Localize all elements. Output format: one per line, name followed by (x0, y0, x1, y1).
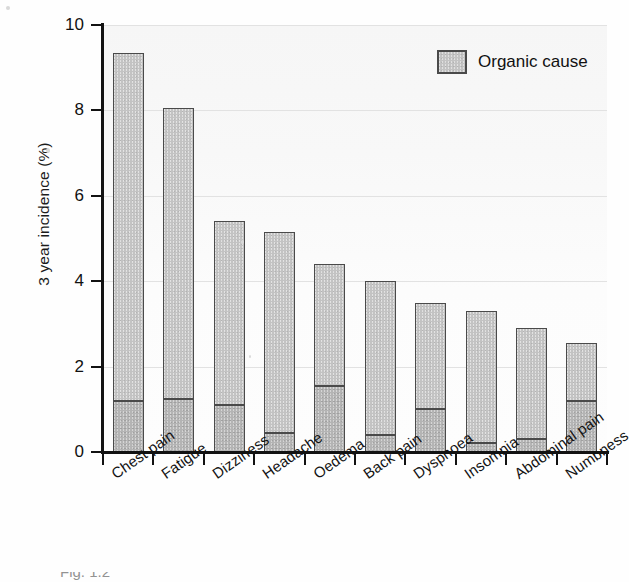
bar (214, 221, 245, 452)
y-axis-tick-label: 6 (36, 186, 84, 206)
bar-segment-remainder (214, 221, 245, 405)
bar-segment-remainder (113, 53, 144, 401)
y-axis-tick-label: 0 (36, 442, 84, 462)
y-axis-tick-label: 2 (36, 357, 84, 377)
bar-segment-remainder (516, 328, 547, 439)
scan-speck (241, 240, 244, 244)
bar-segment-remainder (466, 311, 497, 443)
bar-segment-remainder (314, 264, 345, 386)
bar-segment-remainder (566, 343, 597, 401)
y-axis-tick-label: 10 (36, 15, 84, 35)
legend: Organic cause (437, 50, 588, 74)
legend-swatch-organic-cause (437, 50, 467, 74)
bar (264, 232, 295, 452)
bar-segment-remainder (163, 108, 194, 398)
figure-caption: Fig. 1.2 (60, 572, 580, 582)
bar (466, 311, 497, 452)
y-axis-tick (91, 195, 102, 197)
bar (365, 281, 396, 452)
bar-segment-remainder (365, 281, 396, 435)
scan-speck (6, 6, 10, 10)
y-axis-tick (91, 24, 102, 26)
scan-speck (249, 355, 251, 358)
plot-area (103, 25, 607, 452)
y-axis-spine (101, 23, 104, 454)
legend-label-organic-cause: Organic cause (478, 52, 588, 72)
bar (163, 108, 194, 452)
bar (314, 264, 345, 452)
figure-container: 3 year incidence (%) 0246810 Chest painF… (0, 0, 629, 582)
bar-segment-remainder (264, 232, 295, 433)
bar (516, 328, 547, 452)
bar (113, 53, 144, 452)
gridline (103, 25, 607, 26)
y-axis-tick (91, 280, 102, 282)
y-axis-tick-label: 4 (36, 271, 84, 291)
y-axis-tick (91, 451, 102, 453)
y-axis-tick (91, 109, 102, 111)
y-axis-tick (91, 366, 102, 368)
y-axis-tick-label: 8 (36, 100, 84, 120)
x-axis-tick (102, 453, 104, 465)
bar-segment-remainder (415, 303, 446, 410)
bar-segment-organic-cause (113, 401, 144, 452)
figure-caption-text: Fig. 1.2 (60, 572, 580, 580)
scan-speck (46, 148, 50, 153)
bar (415, 303, 446, 452)
